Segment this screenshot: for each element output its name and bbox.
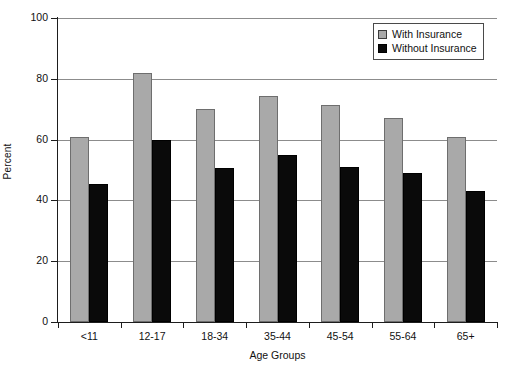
x-axis-title: Age Groups <box>58 349 497 361</box>
y-axis-tick-label: 100 <box>2 11 48 23</box>
x-axis-tick <box>246 323 247 328</box>
bar-with-insurance <box>70 137 89 322</box>
y-axis-tick-label: 0 <box>2 315 48 327</box>
x-axis-tick <box>372 323 373 328</box>
bar-without-insurance <box>215 168 234 322</box>
bar-without-insurance <box>403 173 422 322</box>
bar-with-insurance <box>259 96 278 322</box>
bar-with-insurance <box>196 109 215 322</box>
x-axis-tick <box>58 323 59 328</box>
y-axis-tick-label: 80 <box>2 72 48 84</box>
bar-with-insurance <box>133 73 152 322</box>
bar-with-insurance <box>447 137 466 322</box>
legend-swatch-icon-with-insurance <box>378 30 387 39</box>
gridline <box>58 79 497 80</box>
x-axis-tick <box>434 323 435 328</box>
chart-legend: With Insurance Without Insurance <box>373 23 484 60</box>
gridline <box>58 140 497 141</box>
x-axis-tick-label: <11 <box>58 330 121 342</box>
bar-without-insurance <box>466 191 485 322</box>
x-axis-tick <box>183 323 184 328</box>
x-axis-tick-label: 12-17 <box>121 330 184 342</box>
legend-item-with-insurance: With Insurance <box>378 27 477 41</box>
legend-item-without-insurance: Without Insurance <box>378 41 477 55</box>
plot-area <box>58 18 497 322</box>
y-axis-title: Percent <box>0 0 16 322</box>
x-axis-line <box>57 322 498 323</box>
x-axis-tick <box>121 323 122 328</box>
x-axis-tick <box>309 323 310 328</box>
bar-without-insurance <box>89 184 108 322</box>
bar-without-insurance <box>152 140 171 322</box>
bar-chart: Percent 020406080100 <1112-1718-3435-444… <box>0 0 511 367</box>
y-axis-tick-label: 20 <box>2 254 48 266</box>
y-axis-title-label: Percent <box>3 143 14 179</box>
bar-with-insurance <box>384 118 403 322</box>
x-axis-tick-label: 18-34 <box>183 330 246 342</box>
bar-without-insurance <box>340 167 359 322</box>
bar-with-insurance <box>321 105 340 322</box>
legend-swatch-icon-without-insurance <box>378 44 387 53</box>
x-axis-tick-label: 65+ <box>434 330 497 342</box>
legend-label-without-insurance: Without Insurance <box>392 42 477 54</box>
legend-label-with-insurance: With Insurance <box>392 28 462 40</box>
y-axis-tick-label: 60 <box>2 133 48 145</box>
bar-without-insurance <box>278 155 297 322</box>
y-axis-tick-label: 40 <box>2 193 48 205</box>
gridline <box>58 18 497 19</box>
x-axis-tick <box>497 323 498 328</box>
x-axis-tick-label: 35-44 <box>246 330 309 342</box>
x-axis-tick-label: 55-64 <box>372 330 435 342</box>
x-axis-tick-label: 45-54 <box>309 330 372 342</box>
